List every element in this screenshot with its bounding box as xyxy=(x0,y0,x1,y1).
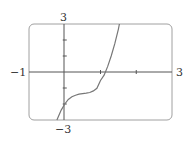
chart: 3 −3 −1 3 xyxy=(0,0,192,142)
y-max-label: 3 xyxy=(60,12,67,23)
x-max-label: 3 xyxy=(176,67,183,78)
plot-svg xyxy=(0,0,192,142)
x-min-label: −1 xyxy=(10,67,26,78)
y-min-label: −3 xyxy=(55,124,71,135)
